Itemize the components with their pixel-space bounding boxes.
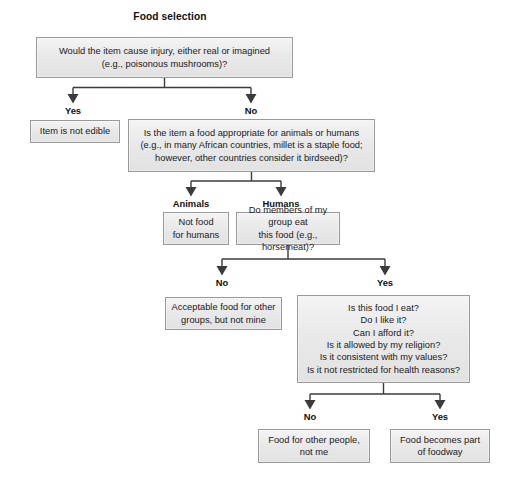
edge-injury-split bbox=[68, 78, 257, 104]
edge-label-injury-yes: Yes bbox=[65, 105, 81, 116]
page-title: Food selection bbox=[0, 11, 340, 22]
node-food-for-other-people-text: Food for other people, not me bbox=[263, 434, 365, 459]
node-acceptable-other-groups-text: Acceptable food for other groups, but no… bbox=[170, 301, 277, 326]
node-question-injury-text: Would the item cause injury, either real… bbox=[41, 45, 288, 70]
node-question-personal-criteria: Is this food I eat? Do I like it? Can I … bbox=[297, 295, 470, 383]
flowchart-canvas: Food selection bbox=[0, 0, 518, 489]
edge-personal-split bbox=[305, 383, 446, 410]
edge-label-group-yes: Yes bbox=[377, 277, 393, 288]
edge-label-personal-no: No bbox=[304, 411, 317, 422]
node-question-group-eat-text: Do members of my group eat this food (e.… bbox=[241, 204, 335, 254]
node-food-becomes-foodway: Food becomes part of foodway bbox=[390, 429, 490, 463]
edge-label-personal-yes: Yes bbox=[432, 411, 448, 422]
node-acceptable-other-groups: Acceptable food for other groups, but no… bbox=[165, 297, 282, 330]
node-not-food-for-humans-text: Not food for humans bbox=[168, 216, 224, 241]
node-item-not-edible: Item is not edible bbox=[30, 120, 120, 143]
edge-label-injury-no: No bbox=[245, 105, 258, 116]
node-question-appropriate: Is the item a food appropriate for anima… bbox=[128, 119, 375, 172]
edge-appropriate-split bbox=[186, 172, 287, 197]
node-question-appropriate-text: Is the item a food appropriate for anima… bbox=[133, 127, 370, 164]
node-not-food-for-humans: Not food for humans bbox=[163, 212, 229, 245]
node-food-becomes-foodway-text: Food becomes part of foodway bbox=[395, 434, 485, 459]
node-question-group-eat: Do members of my group eat this food (e.… bbox=[236, 212, 340, 245]
edge-label-appropriate-animals: Animals bbox=[173, 198, 209, 209]
edge-label-group-no: No bbox=[216, 277, 229, 288]
node-question-personal-criteria-text: Is this food I eat? Do I like it? Can I … bbox=[302, 302, 465, 376]
node-question-injury: Would the item cause injury, either real… bbox=[36, 37, 293, 78]
node-food-for-other-people: Food for other people, not me bbox=[258, 429, 370, 463]
node-item-not-edible-text: Item is not edible bbox=[35, 125, 115, 137]
